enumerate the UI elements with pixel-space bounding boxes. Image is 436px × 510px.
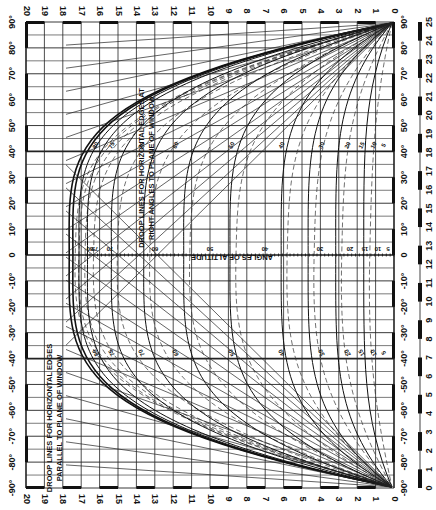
left-scale-bar [25, 126, 28, 152]
upper-curve-label: 20 [343, 140, 352, 149]
bottom-scale-label: 15 [114, 494, 124, 504]
right-angle-label: -60° [399, 402, 409, 419]
left-angle-label: -90° [7, 479, 17, 496]
top-scale-bar [284, 21, 302, 24]
left-angle-label: -70° [7, 428, 17, 445]
right-scale-bar [392, 281, 395, 307]
top-scale-label: 6 [279, 8, 289, 13]
far-right-scale-label: 10 [424, 297, 434, 307]
far-right-scale-bar [418, 22, 422, 41]
center-altitude-label: 75 [91, 246, 98, 252]
top-scale-label: 7 [261, 8, 271, 13]
far-right-scale-bar [418, 97, 422, 116]
top-scale-label: 1 [371, 8, 381, 13]
left-scale-bar [25, 229, 28, 255]
radial-line-upper [66, 23, 392, 184]
bottom-scale-label: 13 [150, 494, 160, 504]
bottom-scale-bar [63, 486, 81, 489]
far-right-scale-label: 5 [424, 392, 434, 397]
top-scale-label: 3 [334, 8, 344, 13]
upper-curve-label: 40 [277, 140, 286, 149]
bottom-scale-label: 18 [58, 494, 68, 504]
bottom-scale-bar [100, 486, 118, 489]
far-right-scale-label: 20 [424, 110, 434, 120]
title-parallel-line2: PARALLEL TO PLANE OF WINDOW [55, 354, 64, 482]
far-right-scale-label: 18 [424, 147, 434, 157]
far-right-scale-label: 13 [424, 241, 434, 251]
lower-curve-label: 70 [137, 348, 146, 357]
center-altitude-label: 50 [206, 246, 213, 252]
radial-line-lower [66, 442, 392, 487]
right-scale-bar [392, 436, 395, 462]
left-angle-label: 80° [7, 41, 17, 55]
left-scale-bar [25, 333, 28, 359]
upper-curve-label: 30 [317, 140, 326, 149]
top-scale-bar [63, 21, 81, 24]
left-angle-label: 0 [7, 252, 17, 257]
left-angle-label: -80° [7, 453, 17, 470]
left-angle-label: 60° [7, 92, 17, 106]
bottom-scale-label: 19 [40, 494, 50, 504]
radial-line-lower [66, 349, 392, 487]
title-right-angles-line2: RIGHT ANGLES TO PLANE OF WINDOW [147, 95, 156, 240]
center-altitude-label: 5 [386, 246, 390, 252]
left-scale-bar [25, 22, 28, 48]
center-altitude-label: 60 [151, 246, 158, 252]
top-scale-label: 16 [95, 6, 105, 16]
left-angle-label: 40° [7, 144, 17, 158]
far-right-scale-label: 14 [424, 222, 434, 232]
top-scale-bar [320, 21, 338, 24]
left-scale-bar [25, 436, 28, 462]
left-angle-label: 50° [7, 118, 17, 132]
top-scale-bar [136, 21, 154, 24]
far-right-scale-label: 12 [424, 259, 434, 269]
radial-line-lower [66, 188, 392, 487]
title-right-angles: DROOP LINES FOR HORIZONTAL EDGES AT RIGH… [137, 88, 156, 248]
top-scale-label: 18 [58, 6, 68, 16]
diagram-canvas: 2019181716151413121110987654321020191817… [0, 0, 436, 510]
far-right-scale-bar [418, 171, 422, 190]
center-altitude-label: 70 [106, 246, 113, 252]
sun-angle-droop-chart: 2019181716151413121110987654321020191817… [0, 0, 436, 510]
radial-line-upper [66, 23, 392, 207]
top-scale-bar [173, 21, 191, 24]
bottom-scale-label: 1 [371, 496, 381, 501]
far-right-scale-bar [418, 134, 422, 153]
bottom-scale-bar [320, 486, 338, 489]
center-altitude-label: 40 [261, 246, 268, 252]
bottom-scale-bar [26, 486, 44, 489]
top-scale-label: 19 [40, 6, 50, 16]
right-scale-bar [392, 22, 395, 48]
bottom-scale-label: 17 [77, 494, 87, 504]
left-scale-bar [25, 177, 28, 203]
upper-curve-label: 10 [369, 140, 378, 149]
bottom-scale-label: 2 [353, 496, 363, 501]
left-angle-label: -60° [7, 402, 17, 419]
far-right-scale-label: 1 [424, 467, 434, 472]
top-scale-bar [26, 21, 44, 24]
upper-curve-label: 75 [107, 140, 116, 149]
left-scale-bar [25, 74, 28, 100]
top-scale-label: 5 [298, 8, 308, 13]
lower-curve-label: 60 [171, 348, 180, 357]
right-angle-label: -30° [399, 324, 409, 341]
right-angle-label: 10° [399, 222, 409, 236]
bottom-scale-label: 14 [132, 494, 142, 504]
top-scale-label: 8 [242, 8, 252, 13]
bottom-scale-label: 7 [261, 496, 271, 501]
lower-curve-label: 75 [107, 348, 116, 357]
far-right-scale-label: 16 [424, 185, 434, 195]
right-scale-bar [392, 384, 395, 410]
right-angle-label: 30° [399, 170, 409, 184]
far-right-scale-bar [418, 283, 422, 302]
left-angle-label: 70° [7, 67, 17, 81]
bottom-scale-bar [136, 486, 154, 489]
top-scale-label: 9 [224, 8, 234, 13]
lower-curve-label: 5 [380, 349, 387, 355]
right-angle-label: 70° [399, 67, 409, 81]
center-altitude-label: 30 [316, 246, 323, 252]
top-scale-label: 13 [150, 6, 160, 16]
far-right-scale-label: 19 [424, 129, 434, 139]
far-right-scale-bar [418, 358, 422, 377]
bottom-scale-label: 4 [316, 496, 326, 501]
